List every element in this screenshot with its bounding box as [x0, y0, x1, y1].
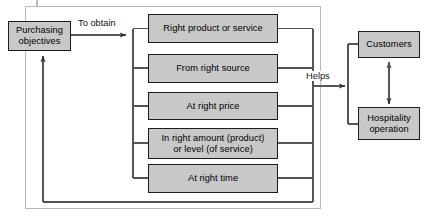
diagram-canvas: Purchasing objectives Right product or s… [0, 0, 439, 223]
edge-label-to-obtain: To obtain [77, 18, 117, 28]
node-label: Customers [359, 39, 419, 50]
top-tick-mark [36, 0, 38, 6]
node-label: At right price [149, 101, 277, 112]
edge-label-helps: Helps [305, 71, 331, 81]
node-label: Purchasing objectives [9, 25, 70, 47]
node-label: From right source [149, 63, 277, 74]
node-label: At right time [149, 173, 277, 184]
node-label: In right amount (product) or level (of s… [149, 133, 277, 155]
node-at-right-time[interactable]: At right time [148, 164, 278, 193]
node-customers[interactable]: Customers [358, 31, 420, 58]
node-hospitality-operation[interactable]: Hospitality operation [358, 107, 420, 140]
node-label: Hospitality operation [359, 113, 419, 135]
node-label: Right product or service [149, 23, 277, 34]
node-in-right-amount-or-level[interactable]: In right amount (product) or level (of s… [148, 128, 278, 159]
node-purchasing-objectives[interactable]: Purchasing objectives [8, 21, 71, 51]
node-right-product-or-service[interactable]: Right product or service [148, 14, 278, 43]
node-from-right-source[interactable]: From right source [148, 54, 278, 83]
node-at-right-price[interactable]: At right price [148, 92, 278, 120]
